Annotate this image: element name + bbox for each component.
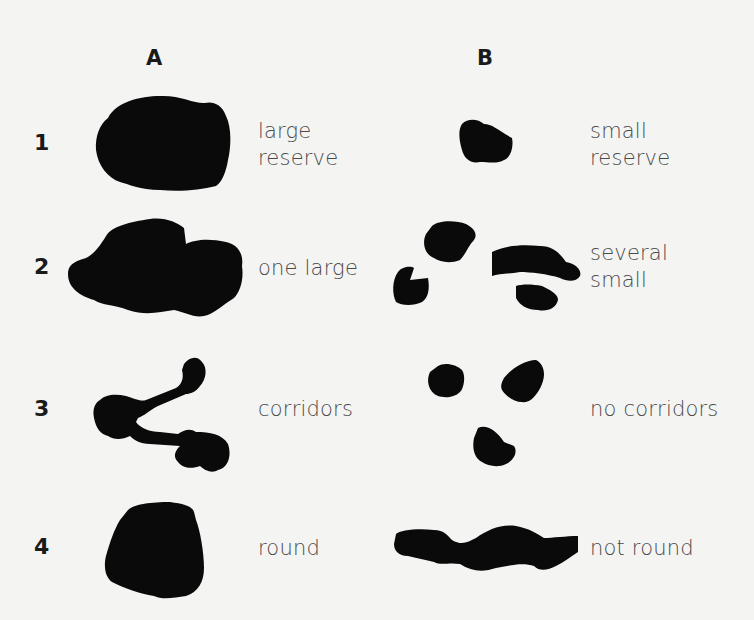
row4-b-label: not round	[590, 535, 694, 562]
reserve-shapes-diagram	[0, 0, 754, 620]
row3-a-label-line1: corridors	[258, 396, 353, 423]
row1-a-label: large reserve	[258, 118, 338, 172]
row4-a-round-blob-shape	[105, 502, 204, 598]
row1-b-small-blob-shape	[459, 120, 512, 163]
row3-a-label: corridors	[258, 396, 353, 423]
row3-b-label-line1: no corridors	[590, 396, 718, 423]
row2-a-label-line1: one large	[258, 255, 358, 282]
row2-b-label: several small	[590, 240, 668, 294]
row1-a-large-blob-shape	[96, 96, 231, 191]
row1-b-label: small reserve	[590, 118, 670, 172]
row1-a-label-line1: large	[258, 118, 338, 145]
row3-b-label: no corridors	[590, 396, 718, 423]
row3-a-corridor-linked-blobs-shape	[93, 358, 229, 472]
row3-b-separate-blobs-shape	[428, 360, 544, 466]
row2-b-label-line1: several	[590, 240, 668, 267]
row4-a-label-line1: round	[258, 535, 320, 562]
row4-a-label: round	[258, 535, 320, 562]
row1-a-label-line2: reserve	[258, 145, 338, 172]
row4-b-elongated-blob-shape	[394, 526, 578, 571]
row1-b-label-line1: small	[590, 118, 670, 145]
row2-b-several-small-blobs-shape	[393, 221, 580, 310]
row4-b-label-line1: not round	[590, 535, 694, 562]
row1-b-label-line2: reserve	[590, 145, 670, 172]
row2-a-label: one large	[258, 255, 358, 282]
row2-b-label-line2: small	[590, 267, 668, 294]
row2-a-one-large-blob-shape	[68, 219, 243, 317]
